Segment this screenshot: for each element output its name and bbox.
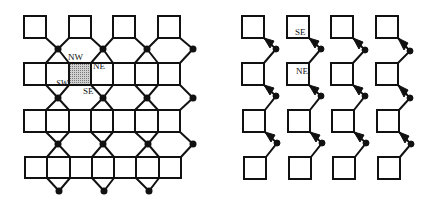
right-connectors [264,38,411,157]
highlighted-cell [69,63,91,85]
label-se-right: SE [295,27,306,37]
diagram-canvas: NW NE SW SE [0,0,436,204]
label-nw: NW [68,52,83,62]
arrow-icon [264,38,414,147]
label-se: SE [83,86,94,96]
right-arrowheads [264,38,414,147]
label-ne: NE [93,61,105,71]
label-sw: SW [56,78,70,88]
left-panel-octagon-lattice [24,16,193,191]
label-ne-right: NE [296,66,308,76]
